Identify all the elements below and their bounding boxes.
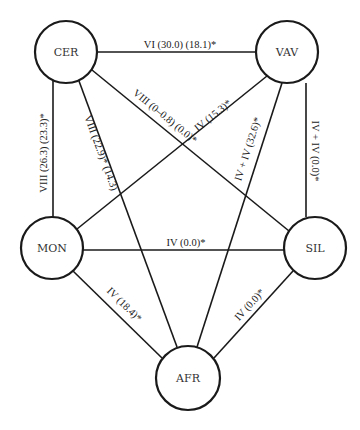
edges: [53, 52, 306, 358]
node-sil-label: SIL: [305, 242, 325, 255]
node-afr: AFR: [156, 346, 220, 410]
edge-label-mon-afr: IV (18.4)*: [104, 285, 144, 324]
node-sil: SIL: [284, 217, 346, 279]
edge-label-vav-afr: IV + IV (32.6)*: [232, 116, 264, 183]
node-mon: MON: [21, 217, 83, 279]
edge-label-cer-vav: VI (30.0) (18.1)*: [144, 39, 216, 51]
node-cer-label: CER: [54, 46, 79, 59]
node-mon-label: MON: [37, 242, 67, 255]
node-vav-label: VAV: [275, 46, 300, 59]
edge-label-cer-mon: VIII (26.3) (23.3)*: [38, 113, 50, 192]
edge-label-vav-sil: IV + IV (0.0)*: [309, 121, 321, 182]
edge-sil-afr: [214, 271, 293, 358]
edge-label-mon-sil: IV (0.0)*: [167, 237, 206, 249]
edge-label-vav-mon: IV (15.3)*: [192, 97, 234, 134]
node-vav: VAV: [256, 21, 318, 83]
edge-label-cer-sil: VIII (0–0.8) (0.0)*: [130, 87, 199, 147]
edge-label-cer-afr: VIII (22.9)* (14.3): [81, 114, 120, 193]
node-cer: CER: [35, 21, 97, 83]
node-afr-label: AFR: [175, 372, 201, 385]
network-diagram: VI (30.0) (18.1)* VIII (0–0.8) (0.0)* VI…: [0, 0, 360, 430]
edge-mon-afr: [73, 271, 162, 358]
